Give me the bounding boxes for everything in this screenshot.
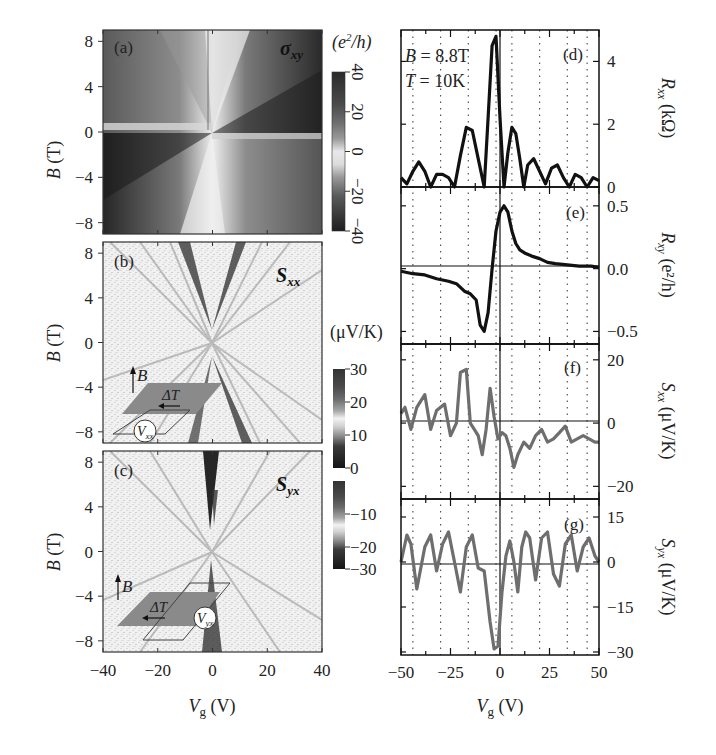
colorbar-bc-tick: −30	[350, 560, 377, 579]
left-x-tick-label: −20	[144, 661, 171, 680]
left-y-tick-label: 4	[85, 78, 94, 97]
left-x-tick-label: −40	[90, 661, 117, 680]
panel-e-y-tick: 0.0	[607, 260, 628, 279]
colorbar-a: (e2/h) 40200−20−40	[332, 31, 371, 244]
panel-e-y-tick: −0.5	[607, 322, 638, 341]
panel-a-label: (a)	[114, 38, 133, 57]
left-y-tick-label: 4	[85, 289, 94, 308]
colorbar-a-tick: −20	[348, 178, 367, 205]
colorbar-bc-tick: 10	[350, 426, 367, 445]
colorbar-a-unit: (e2/h)	[332, 31, 371, 53]
right-x-tick-label: −50	[388, 663, 415, 682]
left-y-tick-label: −4	[75, 587, 94, 606]
svg-text:B (T): B (T)	[44, 141, 65, 179]
panel-f-y-tick: −20	[607, 477, 634, 496]
panel-a-sigma-xy-heatmap	[103, 30, 322, 234]
colorbar-bc-tick: 30	[350, 360, 367, 379]
annotation-b-field: B = 8.8T	[405, 46, 469, 66]
panel-g-y-tick: 15	[607, 508, 624, 527]
left-y-tick-label: −8	[75, 632, 93, 651]
left-y-tick-label: −8	[75, 423, 93, 442]
colorbar-a-tick: 40	[348, 64, 367, 81]
colorbar-bc-tick: 0	[350, 459, 359, 478]
panel-g-y-tick: 0	[607, 553, 616, 572]
svg-text:Rxx (kΩ): Rxx (kΩ)	[655, 77, 678, 139]
panel-f-label: (f)	[564, 358, 581, 377]
left-x-tick-label: 20	[259, 661, 276, 680]
left-x-tick-label: 0	[208, 661, 217, 680]
left-y-tick-label: 4	[85, 498, 94, 517]
left-y-tick-label: 8	[85, 453, 94, 472]
panel-d-y-tick: 4	[607, 52, 616, 71]
right-y-tick-labels: 4200.50.0−0.5200−20150−15−30	[607, 52, 638, 662]
panel-e-y-tick: 0.5	[607, 197, 628, 216]
panel-f-y-tick: 20	[607, 351, 624, 370]
left-y-tick-label: −4	[75, 378, 94, 397]
colorbar-bc-tick: −10	[350, 505, 377, 524]
left-y-tick-label: −4	[75, 168, 94, 187]
inset-b-b-label: B	[137, 366, 148, 385]
svg-text:Syx (μV/K): Syx (μV/K)	[655, 539, 678, 616]
left-y-tick-label: 0	[85, 123, 94, 142]
right-panels-frame	[401, 30, 599, 655]
right-x-tick-label: 0	[496, 663, 505, 682]
panel-c-label: (c)	[114, 461, 133, 480]
figure: Vxx B ΔT Vyx B ΔT (a) σxy (b) Sxx (c) Sy…	[0, 0, 716, 755]
panel-f-y-tick: 0	[607, 414, 616, 433]
left-y-axis-titles: B (T) B (T) B (T)	[44, 141, 65, 571]
colorbar-bc-unit: (μV/K)	[330, 322, 383, 343]
panel-d-label: (d)	[563, 45, 583, 64]
left-y-tick-label: 8	[85, 32, 94, 51]
right-x-tick-label: 25	[541, 663, 558, 682]
left-y-tick-label: 8	[85, 244, 94, 263]
inset-c-b-label: B	[122, 577, 133, 596]
panel-d-y-tick: 0	[607, 178, 616, 197]
left-y-tick-label: 0	[85, 543, 94, 562]
svg-text:Rxy (e²/h): Rxy (e²/h)	[655, 231, 678, 298]
inset-c-dt-label: ΔT	[149, 599, 169, 615]
svg-text:Sxx (μV/K): Sxx (μV/K)	[655, 383, 678, 460]
panel-g-y-tick: −30	[607, 643, 634, 662]
annotation-temperature: T = 10K	[405, 71, 465, 91]
colorbar-bc-tick: 20	[350, 393, 367, 412]
right-y-axis-titles: Rxx (kΩ) Rxy (e²/h) Sxx (μV/K) Syx (μV/K…	[655, 77, 678, 616]
colorbar-a-tick: −40	[348, 218, 367, 245]
left-y-tick-label: 0	[85, 334, 94, 353]
inset-b-dt-label: ΔT	[161, 387, 181, 403]
right-x-tick-label: −25	[437, 663, 464, 682]
panel-b-label: (b)	[114, 252, 134, 271]
panel-g-label: (g)	[564, 515, 584, 534]
panel-e-label: (e)	[566, 203, 585, 222]
left-x-tick-label: 40	[314, 661, 331, 680]
svg-text:B (T): B (T)	[44, 324, 65, 362]
left-y-tick-label: −8	[75, 214, 93, 233]
left-x-axis-title: Vg (V)	[189, 696, 236, 719]
colorbar-a-tick: 20	[348, 103, 367, 120]
panel-d-y-tick: 2	[607, 115, 616, 134]
right-x-axis-title: Vg (V)	[477, 696, 524, 719]
right-x-tick-label: 50	[591, 663, 608, 682]
panel-g-y-tick: −15	[607, 598, 634, 617]
colorbar-a-tick: 0	[348, 147, 367, 156]
left-y-ticks: 840−4−8840−4−8840−4−8	[75, 32, 103, 651]
right-x-tick-labels: −50−2502550	[388, 663, 608, 682]
colorbar-bc-tick: −20	[350, 538, 377, 557]
svg-text:B (T): B (T)	[44, 533, 65, 571]
colorbar-bc: (μV/K) 3020100−10−20−30	[330, 322, 383, 579]
